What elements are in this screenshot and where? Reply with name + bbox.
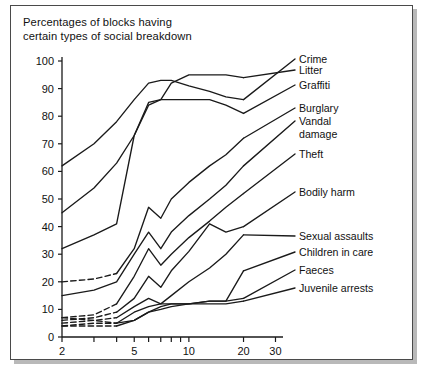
y-tick-label: 20	[42, 276, 54, 288]
y-tick-label: 80	[42, 110, 54, 122]
series-label: Burglary	[299, 102, 339, 114]
y-tick-label: 70	[42, 138, 54, 150]
y-tick-label: 30	[42, 248, 54, 260]
series-curve	[62, 166, 244, 296]
series-curve	[62, 100, 244, 249]
series-label: Theft	[299, 148, 323, 160]
figure-root: Percentages of blocks having certain typ…	[0, 0, 426, 381]
x-tick-label: 20	[237, 345, 249, 357]
series-leader-line	[244, 70, 295, 78]
y-tick-label: 60	[42, 165, 54, 177]
y-tick-label: 10	[42, 303, 54, 315]
series-label: Bodily harm	[299, 186, 355, 198]
x-tick-label: 5	[131, 345, 137, 357]
series-curve	[117, 224, 244, 312]
series-label: Faeces	[299, 264, 334, 276]
series-leader-lines	[244, 59, 295, 301]
x-axis-ticks	[62, 337, 275, 342]
series-label: Litter	[299, 64, 323, 76]
x-tick-label: 30	[269, 345, 281, 357]
series-label: Juvenile arrests	[299, 282, 373, 294]
series-label-continued: damage	[299, 128, 337, 140]
series-leader-line	[244, 235, 295, 236]
y-tick-label: 90	[42, 83, 54, 95]
series-curve	[62, 80, 244, 166]
series-label: Vandal	[299, 115, 331, 127]
series-leader-line	[244, 252, 295, 271]
series-label: Sexual assaults	[299, 230, 373, 242]
series-curves	[62, 75, 244, 326]
series-leader-line	[244, 59, 295, 100]
x-tick-label: 10	[183, 345, 195, 357]
y-tick-label: 40	[42, 221, 54, 233]
figure-frame: Percentages of blocks having certain typ…	[10, 5, 413, 360]
y-tick-label: 0	[48, 331, 54, 343]
series-label: Graffiti	[299, 79, 330, 91]
series-curve	[117, 301, 244, 326]
series-curve	[62, 75, 244, 213]
y-tick-label: 100	[36, 55, 54, 67]
series-leader-line	[244, 108, 295, 138]
series-curve-dashed	[62, 304, 117, 318]
y-tick-label: 50	[42, 193, 54, 205]
series-curve	[117, 194, 244, 304]
x-axis-tick-labels: 25102030	[59, 345, 282, 357]
series-label: Children in care	[299, 246, 373, 258]
line-chart: 0102030405060708090100 25102030 CrimeLit…	[11, 6, 412, 359]
series-leader-line	[244, 85, 295, 113]
series-leader-line	[244, 192, 295, 227]
series-curve-dashed	[62, 274, 117, 282]
x-tick-label: 2	[59, 345, 65, 357]
series-labels: CrimeLitterGraffitiBurglaryVandaldamageT…	[299, 53, 373, 294]
y-axis-tick-labels: 0102030405060708090100	[36, 55, 54, 343]
